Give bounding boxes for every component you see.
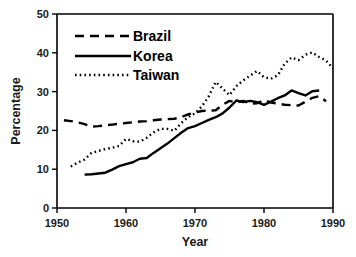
- y-tick-label: 10: [37, 163, 49, 175]
- x-tick-label: 1960: [114, 217, 138, 229]
- legend-label-korea: Korea: [133, 48, 173, 64]
- line-chart: 01020304050 19501960197019801990 Percent…: [0, 0, 356, 257]
- x-tick-label: 1950: [45, 217, 69, 229]
- y-tick-label: 40: [37, 47, 49, 59]
- y-tick-label: 30: [37, 86, 49, 98]
- x-tick-label: 1980: [252, 217, 276, 229]
- x-axis-title: Year: [182, 235, 209, 249]
- x-tick-label: 1990: [321, 217, 345, 229]
- chart-figure: 01020304050 19501960197019801990 Percent…: [0, 0, 356, 257]
- y-tick-label: 50: [37, 8, 49, 20]
- y-axis-title: Percentage: [9, 77, 23, 144]
- y-tick-label: 0: [43, 202, 49, 214]
- legend-label-brazil: Brazil: [133, 28, 171, 44]
- y-tick-label: 20: [37, 124, 49, 136]
- x-tick-label: 1970: [183, 217, 207, 229]
- legend-label-taiwan: Taiwan: [133, 67, 179, 83]
- chart-legend: Brazil Korea Taiwan: [75, 28, 179, 83]
